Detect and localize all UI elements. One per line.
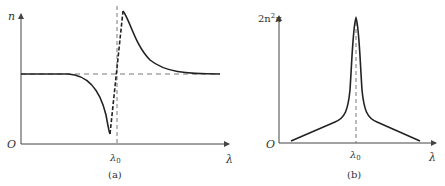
absorption-curve: [291, 18, 420, 141]
lambda0-label: λ0: [109, 152, 121, 165]
panel-a: n O λ λ0 (a): [7, 6, 233, 180]
origin-label: O: [7, 138, 16, 151]
origin-label: O: [266, 138, 275, 151]
x-axis-label: λ: [225, 153, 233, 166]
caption-a: (a): [108, 169, 122, 180]
n-curve-left: [21, 74, 110, 134]
n-curve-transition: [110, 11, 123, 134]
y-axis-label: 2n2κ: [258, 12, 282, 24]
x-axis-label: λ: [428, 151, 436, 164]
dispersion-diagram: n O λ λ0 (a) 2n2κ O λ λ0 (b): [0, 0, 445, 186]
caption-b: (b): [347, 169, 361, 180]
panel-b: 2n2κ O λ λ0 (b): [258, 12, 436, 180]
y-axis-label: n: [8, 10, 15, 23]
n-curve-right: [123, 11, 220, 74]
lambda0-label: λ0: [349, 149, 361, 162]
